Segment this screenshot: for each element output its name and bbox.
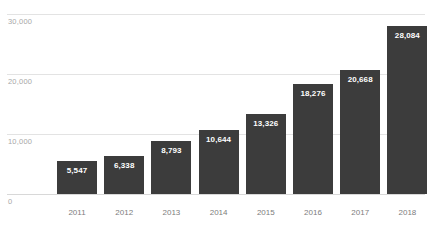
bar-2013[interactable]: 8,793 (151, 141, 191, 194)
bar-rect-2016[interactable]: 18,276 (293, 84, 333, 194)
bar-value-label-2011: 5,547 (57, 166, 97, 175)
bar-rect-2017[interactable]: 20,668 (340, 70, 380, 194)
bar-2011[interactable]: 5,547 (57, 161, 97, 194)
bar-value-label-2016: 18,276 (293, 89, 333, 98)
x-axis-tick-2012: 2012 (104, 208, 144, 217)
bar-rect-2018[interactable]: 28,084 (387, 26, 427, 195)
bar-value-label-2018: 28,084 (387, 31, 427, 40)
bar-2017[interactable]: 20,668 (340, 70, 380, 194)
bar-rect-2015[interactable]: 13,326 (246, 114, 286, 194)
x-axis-tick-2017: 2017 (340, 208, 380, 217)
bar-rect-2011[interactable]: 5,547 (57, 161, 97, 194)
bar-rect-2012[interactable]: 6,338 (104, 156, 144, 194)
bar-rect-2014[interactable]: 10,644 (199, 130, 239, 194)
bar-2012[interactable]: 6,338 (104, 156, 144, 194)
bar-rect-2013[interactable]: 8,793 (151, 141, 191, 194)
bar-2016[interactable]: 18,276 (293, 84, 333, 194)
x-axis-tick-2015: 2015 (246, 208, 286, 217)
x-axis-tick-2011: 2011 (57, 208, 97, 217)
bar-2018[interactable]: 28,084 (387, 26, 427, 195)
x-axis-tick-2013: 2013 (151, 208, 191, 217)
bar-value-label-2015: 13,326 (246, 119, 286, 128)
x-axis-tick-2018: 2018 (387, 208, 427, 217)
bar-2014[interactable]: 10,644 (199, 130, 239, 194)
bar-value-label-2014: 10,644 (199, 135, 239, 144)
x-axis-tick-2014: 2014 (199, 208, 239, 217)
x-axis-tick-2016: 2016 (293, 208, 333, 217)
bar-value-label-2017: 20,668 (340, 75, 380, 84)
bar-value-label-2013: 8,793 (151, 146, 191, 155)
bar-2015[interactable]: 13,326 (246, 114, 286, 194)
bar-value-label-2012: 6,338 (104, 161, 144, 170)
